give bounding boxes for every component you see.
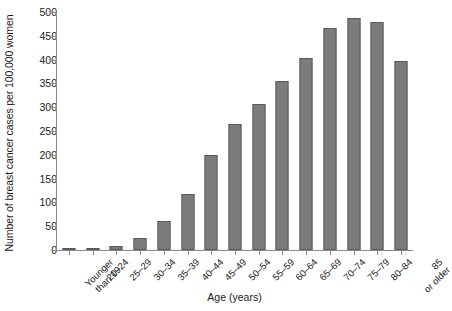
bar-slot (199, 12, 223, 250)
bar (157, 221, 170, 250)
x-axis-title: Age (years) (56, 291, 413, 303)
x-tick-mark (377, 251, 378, 255)
bar-slot (128, 12, 152, 250)
bar (62, 248, 75, 250)
x-tick-mark (259, 251, 260, 255)
bar (395, 61, 408, 250)
bar-slot (294, 12, 318, 250)
bar-slot (176, 12, 200, 250)
x-tick-mark (282, 251, 283, 255)
x-tick-mark (306, 251, 307, 255)
bar (371, 22, 384, 250)
bar (347, 18, 360, 250)
y-tick-label: 400 (11, 55, 57, 65)
bar-slot (318, 12, 342, 250)
x-tick-mark (401, 251, 402, 255)
x-tick-mark (116, 251, 117, 255)
bar (323, 28, 336, 250)
bar (276, 81, 289, 250)
x-tick-mark (188, 251, 189, 255)
y-tick-label: 150 (11, 174, 57, 184)
bar-slot (81, 12, 105, 250)
x-tick-mark (69, 251, 70, 255)
bar-slot (104, 12, 128, 250)
x-tick-mark (211, 251, 212, 255)
bar (134, 238, 147, 250)
bar (110, 246, 123, 250)
bar-slot (366, 12, 390, 250)
y-tick-label: 500 (11, 7, 57, 17)
bar (205, 155, 218, 250)
y-tick-label: 450 (11, 31, 57, 41)
bar-slot (152, 12, 176, 250)
x-tick-mark (235, 251, 236, 255)
x-tick-mark (330, 251, 331, 255)
y-tick-label: 250 (11, 126, 57, 136)
y-tick-label: 200 (11, 150, 57, 160)
bar-slot (247, 12, 271, 250)
bar (181, 194, 194, 250)
x-tick-mark (164, 251, 165, 255)
x-tick-mark (93, 251, 94, 255)
x-tick-mark (140, 251, 141, 255)
bar (252, 104, 265, 250)
y-tick-label: 0 (11, 245, 57, 255)
plot-area (57, 12, 413, 250)
bar (228, 124, 241, 250)
bar-slot (223, 12, 247, 250)
bar-slot (57, 12, 81, 250)
bar-slot (389, 12, 413, 250)
y-tick-label: 50 (11, 221, 57, 231)
y-tick-label: 300 (11, 102, 57, 112)
bar (300, 58, 313, 250)
y-tick-label: 100 (11, 197, 57, 207)
x-tick-mark (354, 251, 355, 255)
bar-slot (342, 12, 366, 250)
y-tick-label: 350 (11, 78, 57, 88)
bar-slot (271, 12, 295, 250)
bar (86, 248, 99, 250)
